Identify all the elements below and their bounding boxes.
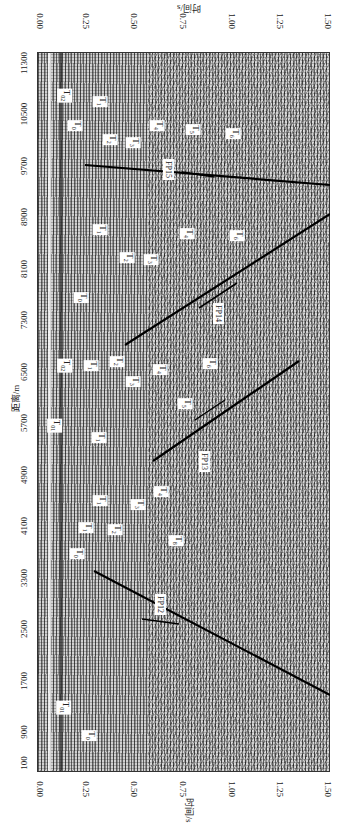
fault-label-fp13: FP13 (199, 451, 210, 472)
horizon-label: T1 (93, 224, 108, 235)
distance-tick: 11300 (19, 45, 29, 81)
distance-tick: 9700 (19, 148, 29, 184)
fault-line-fp12 (94, 571, 330, 695)
distance-tick: 8900 (19, 199, 29, 235)
horizon-label: T8 (169, 535, 184, 546)
horizon-label: T1 (93, 495, 108, 506)
time-tick: 0.00 (35, 6, 45, 36)
horizon-label: T01 (56, 701, 71, 715)
horizon-label: T3 (126, 137, 141, 148)
horizon-label: T2 (110, 356, 125, 367)
horizon-label: T1 (93, 96, 108, 107)
horizon-label: T4 (154, 486, 169, 497)
horizon-label: T2 (108, 524, 123, 535)
time-axis-top: 0.00 0.25 0.50 0.75 1.00 1.25 1.50 时间/s (37, 0, 330, 40)
horizon-label: T02 (57, 359, 72, 373)
horizon-label: T6 (203, 358, 218, 369)
horizon-label: T0 (68, 120, 83, 131)
time-tick: 0.25 (81, 6, 91, 36)
horizon-label: T02 (57, 89, 72, 103)
horizon-label: T5 (178, 398, 193, 409)
horizon-label: T0 (70, 548, 85, 559)
fault-line-fp14 (125, 214, 330, 345)
horizon-label: T1 (84, 360, 99, 371)
horizon-label: T4 (150, 120, 165, 131)
fault-overlay (37, 52, 330, 772)
distance-tick: 10500 (19, 96, 29, 132)
distance-tick: 4900 (19, 457, 29, 493)
time-tick: 1.50 (323, 774, 333, 804)
horizon-label: T5 (186, 124, 201, 135)
distance-tick: 4100 (19, 508, 29, 544)
horizon-label: T2 (103, 134, 118, 145)
time-tick: 1.50 (323, 6, 333, 36)
time-tick: 1.00 (227, 774, 237, 804)
time-tick: 0.50 (129, 774, 139, 804)
distance-tick: 2500 (19, 611, 29, 647)
horizon-label: T0 (82, 730, 97, 741)
time-tick: 1.25 (275, 774, 285, 804)
distance-axis: 11300 10500 9700 8900 8100 7300 6500 570… (0, 52, 36, 772)
time-tick: 0.00 (35, 774, 45, 804)
time-axis-title: 时间/s (177, 2, 201, 15)
horizon-label: T3 (126, 376, 141, 387)
horizon-label: T0 (74, 292, 89, 303)
time-axis-title: 时间/s (183, 798, 196, 822)
fault-label-fp15: FP15 (163, 159, 174, 180)
fault-line-fp13 (153, 361, 299, 461)
horizon-label: T01 (47, 419, 62, 433)
distance-tick: 1700 (19, 663, 29, 699)
fault-label-fp12: FP12 (155, 594, 166, 615)
horizon-label: T3 (144, 254, 159, 265)
horizon-label: T4 (180, 228, 195, 239)
distance-tick: 100 (19, 745, 29, 781)
distance-tick: 3300 (19, 560, 29, 596)
slip-arrow (195, 400, 225, 420)
horizon-label: T4 (153, 364, 168, 375)
horizon-label: T1 (79, 522, 94, 533)
horizon-label: T2 (120, 252, 135, 263)
time-tick: 1.00 (227, 6, 237, 36)
fault-line-fp15 (85, 165, 330, 185)
distance-tick: 7300 (19, 302, 29, 338)
time-tick: 1.25 (275, 6, 285, 36)
time-tick: 0.50 (129, 6, 139, 36)
horizon-label: T6 (226, 128, 241, 139)
time-axis-bottom: 0.00 0.25 0.50 0.75 1.00 1.25 1.50 时间/s (37, 776, 330, 816)
distance-axis-title: 距离/m (9, 385, 22, 413)
horizon-label: T6 (230, 230, 245, 241)
horizon-label: T1 (92, 432, 107, 443)
horizon-label: T3 (131, 499, 146, 510)
time-tick: 0.25 (81, 774, 91, 804)
distance-tick: 8100 (19, 251, 29, 287)
fault-label-fp14: FP14 (213, 303, 224, 324)
slip-arrow (142, 619, 179, 624)
